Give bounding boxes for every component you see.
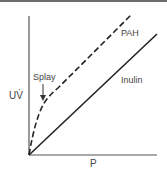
inulin-label: Inulin bbox=[121, 76, 143, 85]
pah-label: PAH bbox=[121, 29, 139, 38]
splay-arrow-head bbox=[40, 95, 46, 101]
diagram: UV̇ P PAH Inulin Splay bbox=[0, 0, 167, 176]
x-axis-label: P bbox=[90, 159, 97, 169]
y-axis-label: UV̇ bbox=[9, 91, 23, 101]
diagram-canvas bbox=[0, 0, 167, 176]
inulin-line bbox=[29, 34, 157, 155]
splay-annotation: Splay bbox=[33, 73, 56, 82]
pah-dashed-curve bbox=[29, 15, 131, 155]
